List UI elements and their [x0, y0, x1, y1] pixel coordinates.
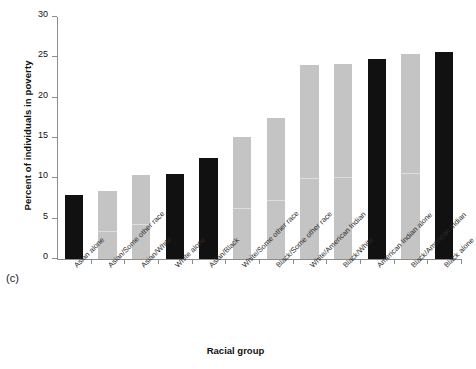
bar — [368, 59, 386, 259]
bar — [166, 174, 184, 259]
y-tick-label: 25 — [38, 49, 48, 59]
bar — [98, 191, 116, 259]
bar — [65, 195, 83, 259]
y-tick: 20 — [52, 97, 57, 98]
y-tick: 5 — [52, 218, 57, 219]
y-tick-label: 30 — [38, 9, 48, 19]
y-axis-title: Percent of individuals in poverty — [22, 26, 33, 246]
x-tick — [461, 260, 462, 264]
y-tick-label: 0 — [43, 251, 48, 261]
y-tick: 25 — [52, 56, 57, 57]
y-tick-label: 5 — [43, 211, 48, 221]
y-tick-label: 20 — [38, 90, 48, 100]
plot-area: 051015202530 — [57, 17, 461, 259]
x-axis-category-labels: Asian aloneAsian/Some other raceAsian/Wh… — [57, 259, 461, 345]
y-tick: 30 — [52, 16, 57, 17]
panel-label: (c) — [6, 272, 19, 284]
y-tick: 15 — [52, 137, 57, 138]
y-tick-label: 10 — [38, 170, 48, 180]
x-axis-title: Racial group — [0, 345, 471, 356]
y-tick: 10 — [52, 177, 57, 178]
y-axis-line — [57, 17, 58, 260]
y-tick-label: 15 — [38, 130, 48, 140]
